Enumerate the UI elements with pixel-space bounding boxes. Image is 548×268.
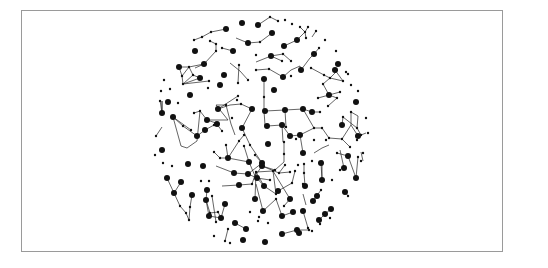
graph-edge xyxy=(230,104,241,105)
graph-node-small xyxy=(310,67,312,69)
graph-node-small xyxy=(311,230,313,232)
graph-node-large xyxy=(194,133,200,139)
graph-node-small xyxy=(224,240,226,242)
graph-node-small xyxy=(238,64,240,66)
graph-node-small xyxy=(225,144,227,146)
graph-edge xyxy=(283,54,291,61)
graph-node-small xyxy=(240,103,242,105)
graph-node-small xyxy=(335,50,337,52)
graph-node-small xyxy=(291,182,293,184)
graph-node-small xyxy=(303,172,305,174)
graph-node-small xyxy=(347,73,349,75)
graph-edge xyxy=(225,229,228,241)
graph-node-large xyxy=(279,213,285,219)
graph-node-large xyxy=(314,193,320,199)
graph-edge xyxy=(279,165,285,173)
graph-node-small xyxy=(350,111,352,113)
graph-node-large xyxy=(240,237,246,243)
graph-edges xyxy=(156,17,366,241)
graph-node-large xyxy=(290,209,296,215)
graph-node-large xyxy=(268,53,274,59)
graph-node-large xyxy=(319,177,325,183)
graph-node-small xyxy=(356,139,358,141)
graph-node-small xyxy=(272,170,274,172)
graph-node-small xyxy=(190,129,192,131)
graph-node-small xyxy=(199,110,201,112)
graph-node-small xyxy=(342,116,344,118)
graph-node-small xyxy=(360,160,362,162)
graph-node-small xyxy=(299,26,301,28)
graph-node-small xyxy=(182,125,184,127)
graph-node-large xyxy=(280,74,286,80)
graph-node-large xyxy=(245,171,251,177)
graph-node-large xyxy=(316,217,322,223)
graph-node-small xyxy=(237,82,239,84)
graph-node-small xyxy=(154,154,156,156)
graph-node-small xyxy=(159,100,161,102)
graph-edge xyxy=(357,116,358,128)
graph-edge xyxy=(279,172,290,173)
graph-node-small xyxy=(257,220,259,222)
graph-node-small xyxy=(304,31,306,33)
graph-node-large xyxy=(217,82,223,88)
graph-edge xyxy=(202,32,211,37)
graph-node-small xyxy=(350,84,352,86)
graph-node-large xyxy=(171,190,177,196)
graph-node-large xyxy=(353,175,359,181)
graph-node-small xyxy=(294,170,296,172)
graph-node-small xyxy=(367,132,369,134)
graph-node-small xyxy=(211,195,213,197)
graph-node-large xyxy=(170,114,176,120)
graph-node-small xyxy=(289,171,291,173)
graph-node-small xyxy=(321,127,323,129)
graph-edge xyxy=(194,37,202,40)
graph-node-small xyxy=(284,19,286,21)
graph-node-large xyxy=(341,165,347,171)
graph-node-large xyxy=(264,123,270,129)
graph-node-large xyxy=(271,87,277,93)
graph-edge xyxy=(189,207,190,220)
graph-edge xyxy=(228,141,239,158)
graph-edge xyxy=(250,145,262,163)
graph-node-large xyxy=(204,117,210,123)
graph-node-small xyxy=(305,37,307,39)
graph-node-small xyxy=(297,164,299,166)
graph-node-small xyxy=(209,40,211,42)
network-graph xyxy=(0,0,548,268)
graph-node-small xyxy=(324,39,326,41)
graph-node-large xyxy=(300,150,306,156)
graph-edge xyxy=(275,162,284,170)
graph-node-small xyxy=(329,77,331,79)
graph-node-small xyxy=(227,228,229,230)
graph-node-large xyxy=(189,192,195,198)
graph-node-small xyxy=(327,105,329,107)
graph-edge xyxy=(311,68,324,75)
graph-node-small xyxy=(311,160,313,162)
graph-node-small xyxy=(345,71,347,73)
graph-node-large xyxy=(298,67,304,73)
graph-node-large xyxy=(322,211,328,217)
graph-node-small xyxy=(283,141,285,143)
graph-node-small xyxy=(255,54,257,56)
graph-node-small xyxy=(325,139,327,141)
graph-edge xyxy=(270,17,278,21)
graph-node-large xyxy=(239,125,245,131)
graph-edge xyxy=(210,212,218,213)
graph-node-small xyxy=(188,219,190,221)
graph-node-small xyxy=(251,183,253,185)
graph-edge xyxy=(183,75,193,84)
graph-node-small xyxy=(285,126,287,128)
graph-edge xyxy=(240,71,248,80)
graph-node-small xyxy=(201,36,203,38)
graph-node-small xyxy=(295,138,297,140)
graph-node-small xyxy=(278,172,280,174)
graph-node-large xyxy=(279,231,285,237)
graph-node-small xyxy=(362,152,364,154)
graph-node-small xyxy=(215,221,217,223)
graph-node-large xyxy=(300,208,306,214)
graph-node-small xyxy=(255,69,257,71)
graph-node-small xyxy=(179,205,181,207)
graph-node-small xyxy=(243,145,245,147)
graph-node-small xyxy=(357,156,359,158)
graph-edge xyxy=(238,65,239,83)
